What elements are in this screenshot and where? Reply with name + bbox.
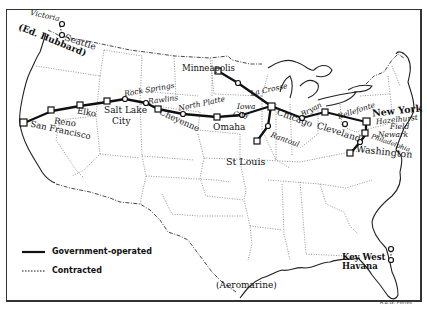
canada-border-east (366, 54, 404, 84)
mexico-border (56, 184, 236, 292)
label-salt-lake-city: City (112, 117, 130, 126)
label-omaha: Omaha (213, 123, 245, 132)
label-havana: Havana (342, 262, 378, 271)
label-minneapolis: Minneapolis (182, 64, 235, 73)
contracted-routes (60, 26, 391, 258)
label-salt-lake: Salt Lake (104, 106, 147, 115)
state-borders (36, 50, 400, 260)
label-aeromarine: (Aeromarine) (216, 281, 277, 290)
label-iowa-city: City (233, 111, 248, 119)
legend-contracted: Contracted (52, 266, 102, 275)
legend-government: Government-operated (52, 247, 152, 256)
label-st-louis: St Louis (226, 157, 265, 167)
map-credit: R.E.G. Peries (380, 299, 412, 305)
